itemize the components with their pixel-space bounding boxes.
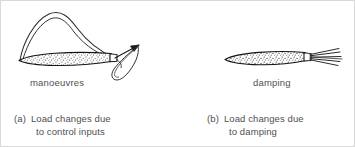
aircraft-diagram-manoeuvres xyxy=(1,1,179,101)
inline-label-damping: damping xyxy=(253,78,291,88)
caption-b-line1: Load changes due xyxy=(224,113,304,124)
caption-panel-a: (a)Load changes due to control inputs xyxy=(14,112,111,138)
panel-load-changes-control-inputs: manoeuvres (a)Load changes due to contro… xyxy=(1,1,179,147)
caption-a-line2: to control inputs xyxy=(14,125,111,138)
caption-tag-b: (b) xyxy=(207,113,219,124)
caption-tag-a: (a) xyxy=(14,113,26,124)
wing-body xyxy=(225,52,307,65)
wing-body xyxy=(19,52,113,65)
caption-panel-b: (b)Load changes due to damping xyxy=(207,112,304,138)
panel-load-changes-damping: damping (b)Load changes due to damping xyxy=(179,1,355,147)
inline-label-manoeuvres: manoeuvres xyxy=(30,78,84,88)
figure-root: manoeuvres (a)Load changes due to contro… xyxy=(0,0,355,147)
caption-b-line2: to damping xyxy=(207,125,304,138)
caption-a-line1: Load changes due xyxy=(31,113,111,124)
